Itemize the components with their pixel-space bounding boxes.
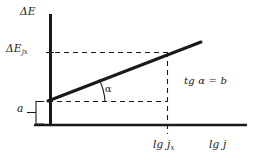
angle-label: α (105, 84, 112, 94)
data-line (48, 42, 201, 101)
y-axis-label: ΔE (20, 6, 36, 17)
intercept-bracket (36, 102, 44, 125)
y-value-label-main: ΔE (6, 42, 22, 54)
x-value-label-sub: x (170, 143, 174, 152)
intercept-label: a (17, 103, 23, 114)
y-value-label: ΔEjx (6, 43, 28, 55)
plot-figure: ΔE ΔEjx a α tg α = b lg jx lg j (0, 0, 258, 161)
y-value-label-sub: jx (22, 47, 28, 56)
x-value-label: lg jx (153, 139, 175, 151)
slope-relation-label: tg α = b (184, 76, 227, 86)
x-value-label-main: lg j (153, 138, 170, 150)
x-axis-label: lg j (209, 139, 226, 150)
